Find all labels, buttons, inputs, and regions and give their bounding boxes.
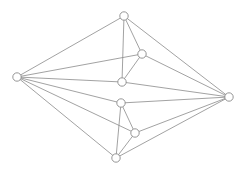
graph-edge [116,133,135,158]
graph-edge [124,16,142,54]
graph-canvas [0,0,245,174]
edge-layer [17,16,229,158]
graph-node [112,154,120,162]
graph-edge [17,54,142,77]
graph-edge [116,97,229,158]
graph-node [117,99,125,107]
graph-node [225,93,233,101]
graph-figure [0,0,245,174]
graph-node [120,12,128,20]
graph-edge [17,16,124,77]
graph-edge [121,103,135,133]
node-layer [13,12,233,162]
graph-node [138,50,146,58]
graph-edge [122,16,124,82]
graph-edge [122,54,142,82]
graph-edge [116,103,121,158]
graph-edge [135,97,229,133]
graph-edge [121,97,229,103]
graph-node [13,73,21,81]
graph-node [131,129,139,137]
graph-node [118,78,126,86]
